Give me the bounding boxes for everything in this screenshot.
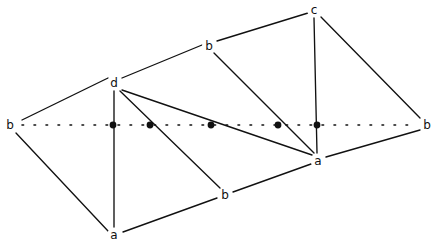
graph-edge-b-left-to-a-bottom xyxy=(16,133,108,231)
vertex-label-n1: b xyxy=(6,118,14,132)
axis-marker-dot xyxy=(208,122,215,129)
vertex-label-n7: b xyxy=(221,188,229,202)
graph-edge-b-top-to-c xyxy=(217,13,308,41)
vertex-label-n3: b xyxy=(205,39,213,53)
graph-edge-b-bottom-to-a-right xyxy=(233,164,311,192)
graph-edge-d-to-b-bottom xyxy=(120,91,220,188)
axis-marker-dot xyxy=(275,122,282,129)
graph-diagram: bdbcbaba xyxy=(0,0,439,251)
edges-group xyxy=(16,13,420,232)
axis-marker-dot xyxy=(110,122,117,129)
vertex-label-n5: b xyxy=(423,118,431,132)
graph-edge-b-left-to-d xyxy=(22,78,108,120)
graph-edge-d-to-b-top xyxy=(122,45,202,78)
graph-edge-c-to-a-right xyxy=(314,18,317,153)
graph-canvas: bdbcbaba xyxy=(0,0,439,251)
graph-edge-a-right-to-b-right xyxy=(326,130,420,157)
graph-edge-a-bottom-to-b-bottom xyxy=(123,198,217,232)
vertex-label-n4: c xyxy=(311,3,318,17)
vertex-label-n2: d xyxy=(110,76,118,90)
graph-edge-c-to-b-right xyxy=(321,17,420,118)
axis-marker-dot xyxy=(147,122,154,129)
vertex-label-n8: a xyxy=(110,228,117,242)
axis-marker-dot xyxy=(314,122,321,129)
vertex-label-n6: a xyxy=(314,154,321,168)
